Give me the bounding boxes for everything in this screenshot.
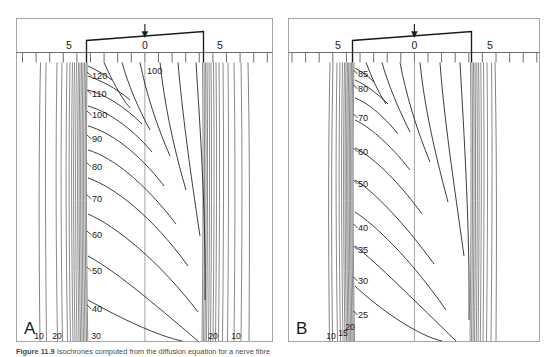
panel-b-label-30: 30	[358, 276, 368, 286]
panel-b-letter: B	[296, 319, 307, 338]
panel-b-label-85: 85	[358, 69, 368, 79]
figure-caption-label: Figure 11.9	[16, 347, 55, 356]
panel-b-label-40: 40	[358, 223, 368, 233]
panel-b-label-25: 25	[358, 310, 368, 320]
panel-b-label-70: 70	[358, 113, 368, 123]
panel-b-label-35: 35	[358, 245, 368, 255]
figure-root: 5 0 5	[0, 0, 556, 357]
panel-b-label-80: 80	[358, 84, 368, 94]
panel-b-ruler-label-left: 5	[335, 39, 341, 51]
panel-b-label-50: 50	[358, 179, 368, 189]
figure-caption-text: Isochrones computed from the diffusion e…	[55, 347, 271, 356]
figure-caption: Figure 11.9 Isochrones computed from the…	[16, 347, 544, 356]
panel-b-label-60: 60	[358, 147, 368, 157]
panel-b-bottom-20: 20	[345, 322, 355, 332]
panel-b-ruler-label-right: 5	[487, 39, 493, 51]
panel-b: 5 0 5	[0, 0, 556, 357]
panel-b-ruler-label-center: 0	[411, 39, 417, 51]
panel-b-bottom-10: 10	[326, 331, 336, 341]
